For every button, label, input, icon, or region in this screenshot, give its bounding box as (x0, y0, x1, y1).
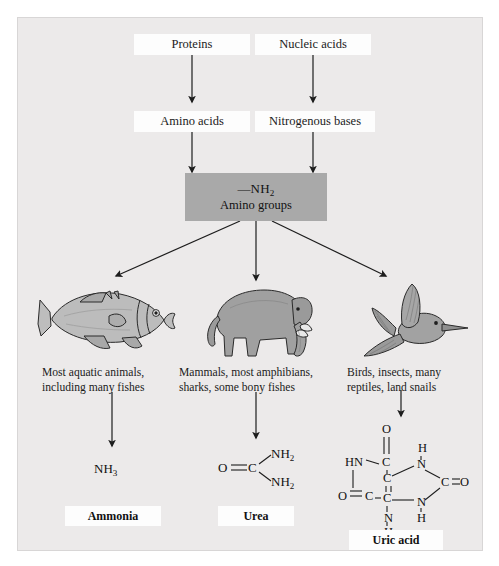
uric-c-center-bottom: C (383, 491, 391, 505)
label-ammonia: Ammonia (65, 506, 161, 526)
elephant-illustration (200, 282, 316, 366)
box-proteins: Proteins (134, 34, 250, 55)
uric-h-ur: H (418, 441, 427, 455)
fish-illustration (36, 280, 176, 360)
caption-urea-group: Mammals, most amphibians, sharks, some b… (179, 366, 359, 396)
ammonia-formula: NH (94, 461, 113, 476)
uric-c-right: C (441, 475, 449, 489)
caption-uric-acid-group: Birds, insects, many reptiles, land snai… (347, 366, 483, 396)
box-nucleic-acids: Nucleic acids (255, 34, 371, 55)
ammonia-formula-sub: 3 (113, 468, 118, 478)
urea-n2-atom: NH2 (271, 474, 294, 491)
caption-urea-line2: sharks, some bony fishes (179, 381, 359, 396)
amino-groups-formula: —NH2 (237, 181, 274, 198)
diagram-panel: Proteins Nucleic acids Amino acids Nitro… (17, 17, 483, 551)
box-nitrogenous-bases-label: Nitrogenous bases (269, 114, 361, 129)
caption-ammonia-group: Most aquatic animals, including many fis… (42, 366, 192, 396)
box-amino-acids: Amino acids (134, 111, 250, 132)
caption-ammonia-line1: Most aquatic animals, (42, 366, 192, 381)
caption-ammonia-line2: including many fishes (42, 381, 192, 396)
amino-groups-formula-sub: 2 (270, 187, 275, 197)
box-amino-acids-label: Amino acids (160, 114, 224, 129)
molecule-ammonia: NH3 (94, 461, 117, 478)
uric-o-top: O (382, 422, 391, 436)
label-uric-acid-text: Uric acid (373, 533, 420, 548)
urea-c-atom: C (248, 460, 257, 475)
uric-c-bl: C (365, 489, 373, 503)
molecule-uric-acid: O HN C O C C C N H H N C O N H (328, 418, 476, 528)
box-nucleic-acids-label: Nucleic acids (279, 37, 347, 52)
uric-n-lr: N (417, 495, 426, 509)
caption-uric-acid-line2: reptiles, land snails (347, 381, 483, 396)
box-proteins-label: Proteins (172, 37, 213, 52)
molecule-urea: O C NH2 NH2 (214, 444, 310, 494)
caption-urea-line1: Mammals, most amphibians, (179, 366, 359, 381)
amino-groups-formula-text: —NH (237, 181, 269, 196)
uric-n-bottom: N (384, 511, 393, 525)
box-amino-groups: —NH2 Amino groups (185, 173, 327, 221)
label-urea: Urea (218, 506, 294, 526)
label-urea-text: Urea (243, 509, 268, 524)
caption-uric-acid-line1: Birds, insects, many (347, 366, 483, 381)
uric-o-left: O (338, 489, 347, 503)
label-ammonia-text: Ammonia (88, 509, 139, 524)
amino-groups-label: Amino groups (220, 198, 292, 213)
uric-h-lr: H (417, 511, 426, 525)
hummingbird-illustration (350, 274, 474, 366)
urea-o-atom: O (218, 460, 227, 475)
label-uric-acid: Uric acid (349, 530, 443, 550)
uric-c-top: C (382, 455, 390, 469)
urea-n1-atom: NH2 (271, 446, 294, 463)
uric-o-right: O (460, 475, 469, 489)
box-nitrogenous-bases: Nitrogenous bases (255, 111, 375, 132)
uric-hn-left: HN (345, 455, 363, 469)
